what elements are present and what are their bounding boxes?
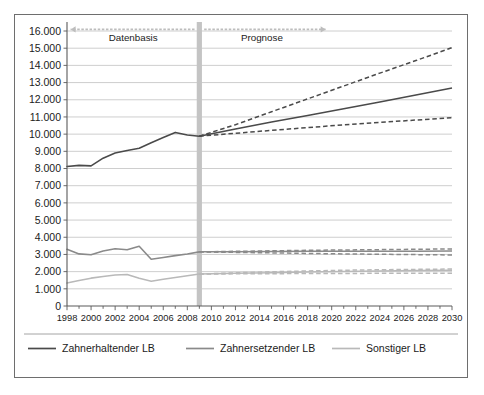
x-tick-label: 2026 <box>394 313 415 323</box>
legend-label: Zahnersetzender LB <box>220 342 315 354</box>
x-tick-label: 2022 <box>345 313 366 323</box>
x-tick-label: 2014 <box>249 313 270 323</box>
x-tick-label: 2016 <box>273 313 294 323</box>
y-tick-label: 2.000 <box>35 265 61 277</box>
axis-lines <box>67 22 452 306</box>
x-tick-label: 1998 <box>57 313 78 323</box>
y-tick-label: 1.000 <box>35 283 61 295</box>
y-tick-label: 9.000 <box>35 145 61 157</box>
y-axis-tick-labels: 01.0002.0003.0004.0005.0006.0007.0008.00… <box>29 25 61 312</box>
legend-label: Zahnerhaltender LB <box>62 342 155 354</box>
y-tick-label: 6.000 <box>35 197 61 209</box>
history-line <box>67 246 199 259</box>
series-zahnersetzender-lb <box>67 246 452 259</box>
y-tick-label: 4.000 <box>35 231 61 243</box>
y-tick-label: 11.000 <box>30 111 61 123</box>
x-tick-label: 2010 <box>201 313 222 323</box>
forecast-mid-line <box>199 251 452 252</box>
forecast-lower-bound <box>199 118 452 136</box>
series-sonstiger-lb <box>67 269 452 283</box>
y-tick-label: 3.000 <box>35 248 61 260</box>
x-tick-label: 2028 <box>418 313 439 323</box>
x-tick-label: 2024 <box>369 313 390 323</box>
y-tick-label: 16.000 <box>29 25 61 37</box>
y-tick-label: 13.000 <box>29 76 61 88</box>
x-tick-label: 2020 <box>321 313 342 323</box>
x-tick-label: 2004 <box>129 313 150 323</box>
x-tick-label: 2012 <box>225 313 246 323</box>
annotation-label: Prognose <box>241 32 283 43</box>
history-line <box>67 274 199 283</box>
y-tick-label: 5.000 <box>35 214 61 226</box>
y-tick-label: 12.000 <box>29 93 61 105</box>
y-tick-label: 0 <box>55 300 61 312</box>
x-tick-marks <box>67 306 452 310</box>
y-tick-label: 14.000 <box>29 59 61 71</box>
y-tick-label: 7.000 <box>35 179 61 191</box>
y-tick-label: 8.000 <box>35 162 61 174</box>
x-tick-label: 2008 <box>177 313 198 323</box>
forecast-upper-bound <box>199 48 452 137</box>
x-axis-tick-labels: 1998200020022004200620082010201220142016… <box>57 313 463 323</box>
chart-canvas: 01.0002.0003.0004.0005.0006.0007.0008.00… <box>14 14 468 378</box>
x-tick-label: 2002 <box>105 313 126 323</box>
y-tick-label: 10.000 <box>29 128 61 140</box>
chart-figure: 01.0002.0003.0004.0005.0006.0007.0008.00… <box>0 0 484 395</box>
forecast-mid-line <box>199 88 452 136</box>
x-tick-label: 2000 <box>81 313 102 323</box>
x-tick-label: 2006 <box>153 313 174 323</box>
x-tick-label: 2030 <box>442 313 463 323</box>
chart-legend: Zahnerhaltender LBZahnersetzender LBSons… <box>24 334 458 354</box>
legend-label: Sonstiger LB <box>366 342 426 354</box>
annotation-label: Datenbasis <box>109 32 158 43</box>
x-tick-label: 2018 <box>297 313 318 323</box>
forecast-split-band <box>197 22 202 306</box>
y-tick-label: 15.000 <box>29 42 61 54</box>
history-line <box>67 132 199 166</box>
